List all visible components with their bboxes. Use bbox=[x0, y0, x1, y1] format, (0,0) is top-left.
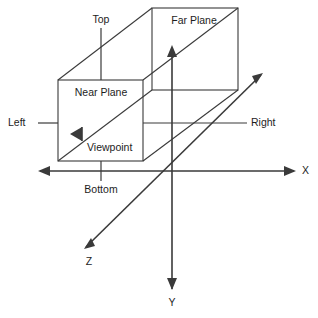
label-bottom: Bottom bbox=[84, 183, 118, 195]
label-far-plane: Far Plane bbox=[171, 14, 217, 26]
label-near-plane: Near Plane bbox=[75, 86, 128, 98]
x-axis-arrowhead-positive bbox=[284, 166, 296, 176]
label-right: Right bbox=[251, 116, 276, 128]
label-left: Left bbox=[8, 116, 26, 128]
y-axis-arrowhead-negative bbox=[167, 45, 177, 57]
label-x-axis: X bbox=[302, 164, 309, 176]
frustum-diagram: Top Bottom Left Right Near Plane Far Pla… bbox=[0, 0, 318, 318]
label-y-axis: Y bbox=[168, 296, 175, 308]
y-axis-arrowhead-positive bbox=[167, 278, 177, 290]
box-edge-bottom-right bbox=[143, 90, 238, 161]
x-axis-arrowhead-negative bbox=[38, 166, 50, 176]
label-viewpoint: Viewpoint bbox=[87, 141, 132, 153]
frustum-box bbox=[58, 8, 238, 161]
y-axis bbox=[167, 45, 177, 290]
label-top: Top bbox=[93, 13, 110, 25]
label-z-axis: Z bbox=[86, 255, 93, 267]
viewpoint-triangle-icon bbox=[70, 127, 82, 141]
frustum-diagram-canvas: Top Bottom Left Right Near Plane Far Pla… bbox=[0, 0, 318, 318]
viewpoint-marker bbox=[70, 127, 82, 141]
